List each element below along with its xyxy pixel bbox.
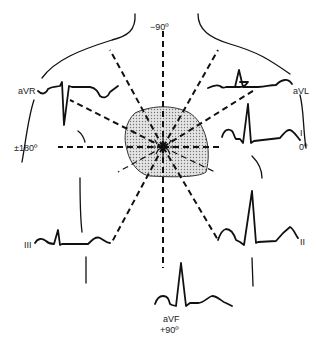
heart-shape bbox=[125, 107, 208, 177]
lead-label-ii: II bbox=[300, 237, 305, 247]
lead-label-avl: aVL bbox=[293, 86, 309, 96]
ecg-trace-avf bbox=[155, 263, 232, 306]
angle-label-plus-90: +90º bbox=[160, 325, 179, 335]
right-shoulder-line bbox=[198, 14, 290, 74]
hexaxial-diagram: aVR aVL I 0º II III aVF +90º −90º ±180º bbox=[0, 0, 316, 343]
angle-label-minus-90: −90º bbox=[150, 22, 169, 32]
lead-label-iii: III bbox=[24, 240, 32, 250]
diagram-canvas bbox=[0, 0, 316, 343]
left-inner-line bbox=[80, 178, 82, 232]
ecg-trace-ii bbox=[218, 191, 298, 245]
right-lower-line bbox=[252, 258, 253, 286]
left-shoulder-line bbox=[42, 14, 135, 78]
ecg-trace-iii bbox=[35, 230, 110, 245]
lead-label-avf: aVF bbox=[163, 314, 180, 324]
lead-axes bbox=[58, 28, 256, 268]
ecg-trace-avl bbox=[208, 70, 292, 88]
lead-label-i: I bbox=[300, 128, 303, 138]
right-armpit-line bbox=[252, 156, 262, 178]
angle-label-180: ±180º bbox=[14, 143, 37, 153]
right-torso-line bbox=[300, 95, 306, 148]
ecg-trace-i bbox=[222, 104, 300, 143]
lead-label-avr: aVR bbox=[18, 86, 36, 96]
left-armpit-line bbox=[78, 131, 85, 142]
angle-label-0: 0º bbox=[299, 142, 307, 152]
